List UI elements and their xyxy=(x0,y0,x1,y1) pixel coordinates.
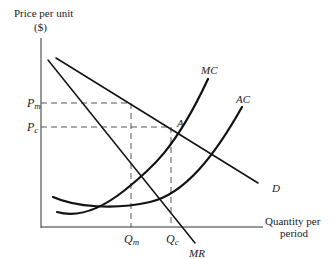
marginal-revenue-curve xyxy=(48,60,195,243)
demand-curve xyxy=(56,58,258,183)
marginal-revenue-label: MR xyxy=(188,247,205,259)
average-cost-curve xyxy=(53,107,242,207)
dashed-guides xyxy=(41,103,171,227)
marginal-cost-label: MC xyxy=(200,64,218,76)
qm-label: Qm xyxy=(124,232,140,247)
pm-label: Pm xyxy=(26,96,41,111)
y-axis-label-line1: Price per unit xyxy=(14,7,73,19)
y-axis-label-line2: ($) xyxy=(34,21,47,34)
qc-label: Qc xyxy=(166,232,179,247)
point-a-label: A xyxy=(176,117,184,129)
economics-diagram: Price per unit ($) Quantity per period P… xyxy=(0,0,333,259)
x-axis-label-line2: period xyxy=(280,227,309,239)
demand-label: D xyxy=(271,182,280,194)
average-cost-label: AC xyxy=(235,93,251,105)
pc-label: Pc xyxy=(26,120,38,135)
x-axis-label-line1: Quantity per xyxy=(265,215,321,227)
